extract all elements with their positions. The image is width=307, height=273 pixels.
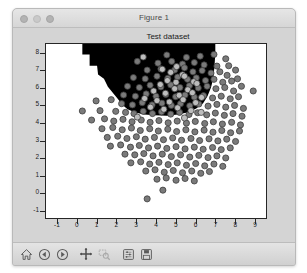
x-tick-mark xyxy=(196,219,197,224)
scatter-plot xyxy=(46,44,266,218)
scatter-point xyxy=(140,54,146,60)
scatter-point xyxy=(217,69,223,75)
scatter-point xyxy=(229,78,235,84)
y-tick-label: 1 xyxy=(25,172,39,179)
scatter-point xyxy=(164,77,170,83)
scatter-point xyxy=(174,128,180,134)
forward-button[interactable] xyxy=(54,246,70,262)
scatter-point xyxy=(119,101,125,107)
scatter-point xyxy=(227,96,233,102)
scatter-point xyxy=(211,51,217,57)
scatter-point xyxy=(220,163,226,169)
scatter-point xyxy=(181,73,187,79)
scatter-point xyxy=(223,56,229,62)
scatter-point xyxy=(199,68,205,74)
scatter-point xyxy=(223,155,229,161)
scatter-point xyxy=(205,103,211,109)
scatter-point xyxy=(179,170,185,176)
figure-window: Figure 1 Test dataset -1012345678 -10123… xyxy=(12,8,296,266)
scatter-point xyxy=(197,53,203,59)
scatter-point xyxy=(211,161,217,167)
scatter-point xyxy=(134,114,140,120)
scatter-point xyxy=(189,90,195,96)
scatter-point xyxy=(172,86,178,92)
matplotlib-toolbar xyxy=(13,242,295,265)
x-tick-mark xyxy=(97,219,98,224)
y-tick-label: 4 xyxy=(25,119,39,126)
scatter-point xyxy=(201,127,207,133)
scatter-point xyxy=(137,127,143,133)
save-button[interactable] xyxy=(138,246,154,262)
home-button[interactable] xyxy=(18,246,34,262)
scatter-point xyxy=(232,67,238,73)
scatter-point xyxy=(165,120,171,126)
scatter-point xyxy=(136,84,142,90)
scatter-point xyxy=(229,119,235,125)
scatter-point xyxy=(147,126,153,132)
scatter-point xyxy=(121,92,127,98)
y-tick-label: 7 xyxy=(25,66,39,73)
scatter-point xyxy=(144,196,150,202)
scatter-point xyxy=(132,93,138,99)
scatter-point xyxy=(99,126,105,132)
zoom-button[interactable] xyxy=(96,246,112,262)
scatter-point xyxy=(154,73,160,79)
scatter-point xyxy=(119,127,125,133)
x-tick-mark xyxy=(156,219,157,224)
x-tick-mark xyxy=(235,219,236,224)
scatter-point xyxy=(122,151,128,157)
scatter-point xyxy=(234,76,240,82)
scatter-point xyxy=(147,161,153,167)
scatter-point xyxy=(144,67,150,73)
scatter-point xyxy=(104,134,110,140)
scatter-point xyxy=(154,97,160,103)
scatter-point xyxy=(193,100,199,106)
scatter-point xyxy=(240,105,246,111)
scatter-point xyxy=(222,84,228,90)
back-button[interactable] xyxy=(36,246,52,262)
scatter-point xyxy=(218,147,224,153)
scatter-point xyxy=(124,135,130,141)
scatter-point xyxy=(188,135,194,141)
scatter-point xyxy=(193,160,199,166)
scatter-point xyxy=(134,58,140,64)
x-tick-mark xyxy=(116,219,117,224)
scatter-point xyxy=(191,144,197,150)
scatter-point xyxy=(163,175,169,181)
scatter-point xyxy=(228,130,234,136)
scatter-point xyxy=(197,138,203,144)
scatter-point xyxy=(235,94,241,100)
scatter-point xyxy=(170,135,176,141)
scatter-point xyxy=(237,122,243,128)
scatter-point xyxy=(174,118,180,124)
plot-axes[interactable] xyxy=(45,43,267,219)
scatter-point xyxy=(183,127,189,133)
scatter-point xyxy=(124,83,130,89)
scatter-point xyxy=(198,170,204,176)
chart-title: Test dataset xyxy=(57,32,279,41)
scatter-point xyxy=(79,108,85,114)
pan-button[interactable] xyxy=(78,246,94,262)
scatter-point xyxy=(177,152,183,158)
floppy-save-icon xyxy=(140,248,153,261)
scatter-point xyxy=(93,98,99,104)
scatter-point xyxy=(128,160,134,166)
scatter-point xyxy=(110,124,116,130)
scatter-point xyxy=(97,108,103,114)
scatter-point xyxy=(152,167,158,173)
y-tick-label: 3 xyxy=(25,137,39,144)
scatter-point xyxy=(199,94,205,100)
scatter-point xyxy=(164,52,170,58)
scatter-point xyxy=(219,121,225,127)
scatter-point xyxy=(111,118,117,124)
scatter-point xyxy=(170,167,176,173)
window-titlebar: Figure 1 xyxy=(13,9,295,28)
scatter-point xyxy=(132,152,138,158)
scatter-point xyxy=(214,153,220,159)
scatter-point xyxy=(128,125,134,131)
scatter-point xyxy=(206,136,212,142)
scatter-point xyxy=(151,134,157,140)
configure-button[interactable] xyxy=(120,246,136,262)
scatter-point xyxy=(205,155,211,161)
scatter-point xyxy=(155,60,161,66)
